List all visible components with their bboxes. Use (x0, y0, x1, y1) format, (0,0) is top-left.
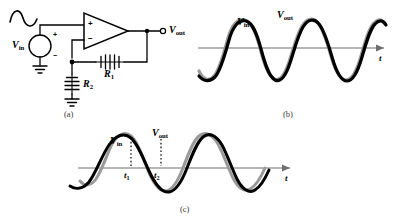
panel-c-vout-label: Vout (152, 128, 168, 138)
panel-c-vout-curve (70, 135, 269, 192)
panel-caption-c: (c) (180, 205, 189, 214)
panel-c-t1-label: t1 (124, 171, 130, 180)
panel-c-vin-label: Vin (110, 136, 122, 146)
panel-c-waveforms (0, 0, 401, 219)
panel-c-t2-label: t2 (154, 171, 160, 180)
panel-c-time-label: t (285, 174, 288, 183)
panel-c-axis-arrow (282, 164, 290, 171)
figure-root: Vin + − + − Vout R1 R2 (a) Vin Vout t (b… (0, 0, 401, 219)
